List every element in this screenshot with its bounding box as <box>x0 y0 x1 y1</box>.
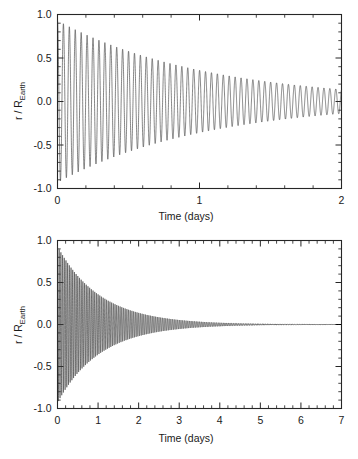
chart-panel-bottom: 01234567-1.0-0.50.00.51.0 Time (days) r … <box>0 228 358 459</box>
y-tick-label: 0.0 <box>37 95 52 107</box>
x-tick-label: 1 <box>197 194 203 206</box>
x-tick-label: 0 <box>55 194 61 206</box>
figure-container: 012-1.0-0.50.00.51.0 Time (days) r / REa… <box>0 0 358 459</box>
x-tick-label: 5 <box>257 414 263 426</box>
y-axis-title-sub-bottom: Earth <box>18 306 27 324</box>
plot-svg-bottom: 01234567-1.0-0.50.00.51.0 Time (days) r … <box>0 228 358 459</box>
x-tick-label: 1 <box>95 414 101 426</box>
data-curve-top <box>58 21 342 181</box>
y-tick-label: 0.0 <box>37 318 52 330</box>
y-axis-title-top: r / REarth <box>12 82 27 120</box>
tick-labels-top: 012-1.0-0.50.00.51.0 <box>33 8 344 205</box>
chart-panel-top: 012-1.0-0.50.00.51.0 Time (days) r / REa… <box>0 0 358 230</box>
x-axis-title-bottom: Time (days) <box>158 432 213 444</box>
svg-text:r / REarth: r / REarth <box>12 306 27 344</box>
y-axis-title-main-bottom: r / R <box>12 324 24 344</box>
y-axis-title-bottom: r / REarth <box>12 306 27 344</box>
x-tick-label: 6 <box>298 414 304 426</box>
plot-svg-top: 012-1.0-0.50.00.51.0 Time (days) r / REa… <box>0 0 358 230</box>
y-tick-label: -0.5 <box>33 139 51 151</box>
x-tick-label: 7 <box>339 414 345 426</box>
x-tick-label: 3 <box>176 414 182 426</box>
x-tick-label: 2 <box>136 414 142 426</box>
y-tick-label: -0.5 <box>33 360 51 372</box>
x-tick-label: 4 <box>217 414 223 426</box>
y-tick-label: 1.0 <box>37 8 52 20</box>
y-tick-label: 1.0 <box>37 234 52 246</box>
y-axis-title-main-top: r / R <box>12 100 24 120</box>
y-axis-title-sub-top: Earth <box>18 82 27 100</box>
x-tick-label: 2 <box>339 194 345 206</box>
svg-text:r / REarth: r / REarth <box>12 82 27 120</box>
y-tick-label: -1.0 <box>33 182 51 194</box>
y-tick-label: 0.5 <box>37 276 52 288</box>
x-tick-label: 0 <box>55 414 61 426</box>
y-tick-label: 0.5 <box>37 52 52 64</box>
x-axis-title-top: Time (days) <box>158 210 213 222</box>
y-tick-label: -1.0 <box>33 402 51 414</box>
data-curve-bottom <box>58 246 342 401</box>
